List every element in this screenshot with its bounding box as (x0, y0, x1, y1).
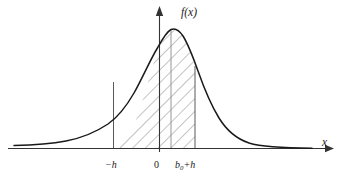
figure-container: f(x) x −h 0 b0+h (0, 0, 337, 178)
tick-label-minus-h: −h (105, 160, 117, 170)
y-axis-label: f(x) (181, 7, 197, 19)
tick-label-b0-suffix: +h (183, 159, 195, 170)
tick-label-zero: 0 (154, 160, 159, 170)
tick-label-b0-subscript: 0 (180, 164, 183, 171)
x-axis-label: x (322, 137, 327, 149)
bell-curve-plot (0, 0, 337, 178)
shaded-area-hatched (110, 20, 200, 150)
tick-label-b0-plus-h: b0+h (175, 160, 195, 170)
y-axis-arrowhead (156, 6, 163, 16)
